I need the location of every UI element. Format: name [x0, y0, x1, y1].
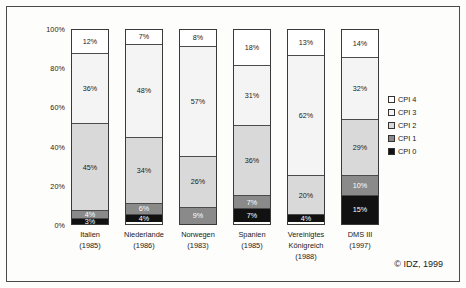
bar-segment-label: 31% — [245, 92, 260, 99]
bar-segment-label: 7% — [139, 33, 150, 40]
legend-swatch-icon — [388, 148, 395, 155]
bar-segment-label: 29% — [353, 144, 368, 151]
y-axis-tick: 60% — [27, 103, 65, 112]
y-axis-tick: 80% — [27, 64, 65, 73]
y-axis-tick: 100% — [27, 25, 65, 34]
legend-item[interactable]: CPI 4 — [388, 93, 454, 106]
bar-segment[interactable]: 6% — [126, 203, 162, 215]
bar-segment-label: 32% — [353, 85, 368, 92]
stacked-bar[interactable]: 8%57%26%9% — [179, 29, 217, 225]
bar-segment-label: 34% — [137, 167, 152, 174]
bar-segment[interactable]: 34% — [126, 137, 162, 203]
chart-figure: 100%80%60%40%20%0% 12%36%45%4%3%7%48%34%… — [0, 0, 466, 288]
chart-frame: 100%80%60%40%20%0% 12%36%45%4%3%7%48%34%… — [6, 6, 460, 282]
bar-segment-label: 3% — [85, 218, 96, 224]
bar-segment[interactable]: 4% — [126, 214, 162, 222]
stacked-bar[interactable]: 7%48%34%6%4% — [125, 29, 163, 225]
x-axis-label: DMS III(1997) — [323, 229, 397, 251]
bar-segment-label: 15% — [353, 206, 368, 213]
bar-segment[interactable]: 57% — [180, 46, 216, 157]
legend-swatch-icon — [388, 109, 395, 116]
bar-segment[interactable]: 13% — [288, 30, 324, 55]
bar-segment[interactable]: 4% — [288, 214, 324, 222]
legend-item[interactable]: CPI 2 — [388, 119, 454, 132]
bar-segment-label: 4% — [301, 215, 312, 222]
legend-label: CPI 4 — [398, 95, 416, 104]
legend-item[interactable]: CPI 0 — [388, 145, 454, 158]
y-axis: 100%80%60%40%20%0% — [27, 29, 65, 225]
bar-segment-label: 8% — [193, 34, 204, 41]
bar-segment[interactable]: 7% — [234, 195, 270, 209]
bar-segment[interactable]: 7% — [234, 208, 270, 222]
x-axis-labels: Italien(1985)Niederlande(1986)Norwegen(1… — [67, 229, 387, 273]
bar-segment[interactable]: 62% — [288, 55, 324, 175]
stacked-bar[interactable]: 12%36%45%4%3% — [71, 29, 109, 225]
bar-segment-label: 18% — [245, 44, 260, 51]
bar-column[interactable]: 13%62%20%4% — [287, 29, 325, 225]
bar-segment[interactable]: 9% — [180, 207, 216, 224]
bars-container: 12%36%45%4%3%7%48%34%6%4%8%57%26%9%18%31… — [67, 29, 387, 225]
bar-segment[interactable]: 15% — [342, 195, 378, 224]
bar-segment[interactable]: 29% — [342, 119, 378, 175]
legend-label: CPI 1 — [398, 134, 416, 143]
bar-segment[interactable]: 31% — [234, 65, 270, 125]
bar-segment[interactable]: 36% — [234, 125, 270, 195]
legend-label: CPI 2 — [398, 121, 416, 130]
bar-segment[interactable]: 10% — [342, 175, 378, 194]
bar-segment-label: 4% — [139, 215, 150, 222]
bar-column[interactable]: 12%36%45%4%3% — [71, 29, 109, 225]
y-axis-tick: 20% — [27, 181, 65, 190]
bar-segment[interactable]: 8% — [180, 30, 216, 46]
copyright-notice: © IDZ, 1999 — [394, 259, 443, 269]
bar-column[interactable]: 14%32%29%10%15% — [341, 29, 379, 225]
legend-swatch-icon — [388, 135, 395, 142]
bar-segment-label: 20% — [299, 192, 314, 199]
y-axis-tick: 40% — [27, 142, 65, 151]
bar-segment-label: 9% — [193, 212, 204, 219]
legend-item[interactable]: CPI 3 — [388, 106, 454, 119]
legend-item[interactable]: CPI 1 — [388, 132, 454, 145]
bar-segment-label: 36% — [83, 85, 98, 92]
bar-segment-label: 4% — [85, 211, 96, 218]
bar-segment[interactable]: 26% — [180, 156, 216, 206]
bar-segment-label: 45% — [83, 164, 98, 171]
chart-legend: CPI 4CPI 3CPI 2CPI 1CPI 0 — [388, 93, 454, 158]
bar-segment-label: 7% — [247, 212, 258, 219]
bar-segment[interactable]: 48% — [126, 44, 162, 137]
bar-segment[interactable]: 7% — [126, 30, 162, 44]
x-axis-label-line: (1988) — [269, 251, 343, 262]
bar-segment-label: 12% — [83, 38, 98, 45]
bar-segment-label: 57% — [191, 98, 206, 105]
bar-segment-label: 62% — [299, 112, 314, 119]
bar-segment[interactable]: 18% — [234, 30, 270, 65]
bar-segment[interactable]: 14% — [342, 30, 378, 57]
bar-segment-label: 36% — [245, 157, 260, 164]
bar-segment-label: 26% — [191, 178, 206, 185]
x-axis-label-line: (1997) — [323, 240, 397, 251]
legend-label: CPI 3 — [398, 108, 416, 117]
stacked-bar[interactable]: 14%32%29%10%15% — [341, 29, 379, 225]
bar-segment-label: 7% — [247, 199, 258, 206]
bar-segment-label: 13% — [299, 39, 314, 46]
bar-column[interactable]: 18%31%36%7%7% — [233, 29, 271, 225]
bar-segment-label: 6% — [139, 205, 150, 212]
bar-column[interactable]: 8%57%26%9% — [179, 29, 217, 225]
x-axis-label-line: DMS III — [323, 229, 397, 240]
bar-segment[interactable]: 45% — [72, 123, 108, 210]
bar-segment[interactable]: 36% — [72, 53, 108, 123]
legend-label: CPI 0 — [398, 147, 416, 156]
bar-segment[interactable]: 12% — [72, 30, 108, 53]
bar-segment-label: 48% — [137, 87, 152, 94]
stacked-bar[interactable]: 18%31%36%7%7% — [233, 29, 271, 225]
bar-column[interactable]: 7%48%34%6%4% — [125, 29, 163, 225]
bar-segment[interactable]: 4% — [72, 210, 108, 218]
bar-segment[interactable]: 20% — [288, 175, 324, 214]
stacked-bar[interactable]: 13%62%20%4% — [287, 29, 325, 225]
bar-segment[interactable]: 3% — [72, 218, 108, 224]
legend-swatch-icon — [388, 122, 395, 129]
bar-segment-label: 14% — [353, 40, 368, 47]
legend-swatch-icon — [388, 96, 395, 103]
bar-segment-label: 10% — [353, 182, 368, 189]
bar-segment[interactable]: 32% — [342, 57, 378, 119]
